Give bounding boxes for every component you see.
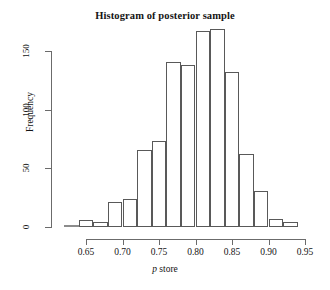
x-tick-label: 0.85 xyxy=(212,247,252,257)
x-tick-label: 0.90 xyxy=(249,247,289,257)
histogram-bar xyxy=(269,219,284,227)
histogram-bar xyxy=(210,29,225,227)
histogram-bar xyxy=(239,154,254,227)
histogram-bar xyxy=(64,225,79,228)
x-tick xyxy=(305,239,306,245)
x-tick xyxy=(86,239,87,245)
x-axis-title-rest: store xyxy=(157,264,178,274)
y-tick-label-text: 0 xyxy=(19,212,33,242)
y-tick-label: 0 xyxy=(11,220,41,234)
x-tick-label: 0.70 xyxy=(103,247,143,257)
histogram-bar xyxy=(254,191,269,227)
x-tick xyxy=(196,239,197,245)
plot-area xyxy=(62,27,304,227)
y-tick-label: 150 xyxy=(11,44,41,58)
histogram-bar xyxy=(108,202,123,227)
x-tick xyxy=(123,239,124,245)
y-tick-label-text: 150 xyxy=(19,36,33,66)
histogram-bar xyxy=(152,141,167,227)
x-tick-label: 0.80 xyxy=(176,247,216,257)
y-tick xyxy=(45,168,51,169)
histogram-bar xyxy=(123,199,138,227)
histogram-bar xyxy=(225,72,240,227)
x-axis-title: p store xyxy=(0,264,330,274)
x-tick-label: 0.65 xyxy=(66,247,106,257)
y-axis-line xyxy=(51,51,52,228)
x-tick-label: 0.75 xyxy=(139,247,179,257)
histogram-bar xyxy=(137,150,152,227)
histogram-bar xyxy=(283,222,298,227)
x-tick xyxy=(232,239,233,245)
y-tick-label: 50 xyxy=(11,161,41,175)
y-tick xyxy=(45,227,51,228)
histogram-bar xyxy=(166,62,181,227)
x-tick-label: 0.95 xyxy=(285,247,325,257)
y-tick-label-text: 50 xyxy=(19,153,33,183)
y-tick-label-text: 100 xyxy=(19,95,33,125)
histogram-figure: Histogram of posterior sample Frequency … xyxy=(0,0,330,290)
x-tick xyxy=(159,239,160,245)
y-tick xyxy=(45,110,51,111)
histogram-bar xyxy=(93,222,108,227)
y-tick xyxy=(45,51,51,52)
histogram-bar xyxy=(79,220,94,227)
chart-title: Histogram of posterior sample xyxy=(0,10,330,21)
y-tick-label: 100 xyxy=(11,103,41,117)
histogram-bar xyxy=(181,65,196,227)
histogram-bar xyxy=(196,31,211,227)
x-tick xyxy=(269,239,270,245)
